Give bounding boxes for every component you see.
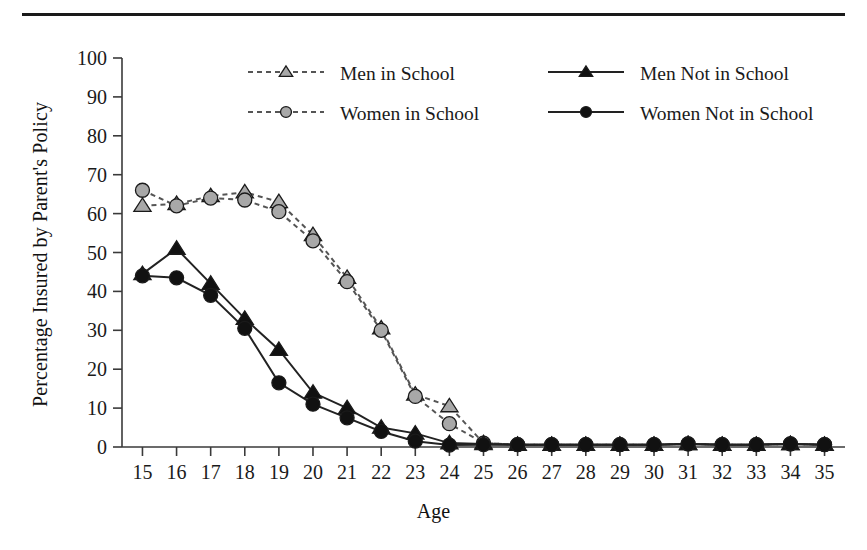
y-tick-label: 0 bbox=[97, 436, 107, 458]
y-tick-label: 80 bbox=[87, 125, 107, 147]
x-tick-label: 26 bbox=[508, 461, 528, 483]
x-tick-label: 29 bbox=[610, 461, 630, 483]
data-point bbox=[408, 434, 422, 448]
data-point bbox=[238, 321, 252, 335]
x-tick-label: 32 bbox=[712, 461, 732, 483]
data-point bbox=[477, 438, 491, 452]
legend-item-men-not-in-school[interactable]: Men Not in School bbox=[548, 63, 790, 84]
y-tick-label: 60 bbox=[87, 203, 107, 225]
x-axis-ticks: 1516171819202122232425262728293031323334… bbox=[132, 447, 834, 483]
data-point bbox=[272, 376, 286, 390]
x-tick-label: 18 bbox=[235, 461, 255, 483]
data-point bbox=[374, 323, 388, 337]
y-tick-label: 20 bbox=[87, 358, 107, 380]
x-tick-label: 20 bbox=[303, 461, 323, 483]
data-point bbox=[374, 424, 388, 438]
legend-item-women-not-in-school[interactable]: Women Not in School bbox=[548, 103, 814, 124]
x-tick-label: 17 bbox=[201, 461, 221, 483]
data-series-layer bbox=[134, 183, 833, 452]
data-point bbox=[135, 183, 149, 197]
legend-label: Women in School bbox=[340, 103, 480, 124]
x-tick-label: 23 bbox=[405, 461, 425, 483]
data-point bbox=[579, 438, 593, 452]
data-point bbox=[613, 438, 627, 452]
x-tick-label: 33 bbox=[746, 461, 766, 483]
legend-item-women-in-school[interactable]: Women in School bbox=[248, 103, 480, 124]
data-point bbox=[238, 193, 252, 207]
x-tick-label: 28 bbox=[576, 461, 596, 483]
data-point bbox=[306, 234, 320, 248]
data-point bbox=[340, 411, 354, 425]
data-point bbox=[272, 205, 286, 219]
y-tick-label: 30 bbox=[87, 319, 107, 341]
data-point bbox=[442, 438, 456, 452]
x-tick-label: 19 bbox=[269, 461, 289, 483]
data-point bbox=[715, 438, 729, 452]
data-point bbox=[545, 438, 559, 452]
series-markers-men-in-school bbox=[134, 184, 833, 450]
x-tick-label: 21 bbox=[337, 461, 357, 483]
x-tick-label: 24 bbox=[439, 461, 459, 483]
series-women-not-in-school bbox=[142, 276, 824, 445]
data-point bbox=[681, 437, 695, 451]
series-markers-men-not-in-school bbox=[134, 241, 833, 450]
data-point bbox=[783, 437, 797, 451]
data-point bbox=[170, 271, 184, 285]
x-tick-label: 27 bbox=[542, 461, 562, 483]
x-tick-label: 22 bbox=[371, 461, 391, 483]
y-axis-ticks: 1009080706050403020100 bbox=[77, 47, 122, 458]
data-point bbox=[408, 389, 422, 403]
series-markers-women-not-in-school bbox=[135, 269, 831, 452]
legend-marker-triangle-icon bbox=[279, 66, 292, 76]
x-tick-label: 35 bbox=[815, 461, 835, 483]
y-tick-label: 50 bbox=[87, 242, 107, 264]
y-tick-label: 70 bbox=[87, 164, 107, 186]
data-point bbox=[340, 275, 354, 289]
y-tick-label: 10 bbox=[87, 397, 107, 419]
x-tick-label: 16 bbox=[167, 461, 187, 483]
series-line bbox=[142, 276, 824, 445]
x-tick-label: 34 bbox=[780, 461, 800, 483]
x-tick-label: 15 bbox=[132, 461, 152, 483]
legend-label: Men in School bbox=[340, 63, 455, 84]
data-point bbox=[749, 438, 763, 452]
data-point bbox=[442, 417, 456, 431]
data-point bbox=[511, 438, 525, 452]
legend-label: Women Not in School bbox=[640, 103, 814, 124]
data-point bbox=[647, 438, 661, 452]
line-chart-plot: 1009080706050403020100 15161718192021222… bbox=[0, 0, 867, 550]
y-tick-label: 100 bbox=[77, 47, 107, 69]
data-point bbox=[204, 191, 218, 205]
data-point bbox=[306, 397, 320, 411]
data-point bbox=[818, 438, 832, 452]
x-tick-label: 30 bbox=[644, 461, 664, 483]
chart-figure: Percentage Insured by Parent's Policy Ag… bbox=[0, 0, 867, 550]
chart-legend: Men in SchoolWomen in SchoolMen Not in S… bbox=[248, 63, 814, 124]
series-line bbox=[142, 249, 824, 445]
data-point bbox=[304, 385, 321, 398]
series-men-not-in-school bbox=[142, 249, 824, 445]
x-tick-label: 31 bbox=[678, 461, 698, 483]
data-point bbox=[170, 199, 184, 213]
y-tick-label: 90 bbox=[87, 86, 107, 108]
legend-item-men-in-school[interactable]: Men in School bbox=[248, 63, 455, 84]
data-point bbox=[168, 241, 185, 254]
y-tick-label: 40 bbox=[87, 280, 107, 302]
legend-label: Men Not in School bbox=[640, 63, 790, 84]
data-point bbox=[204, 288, 218, 302]
legend-marker-circle-icon bbox=[281, 107, 292, 118]
data-point bbox=[134, 198, 151, 211]
legend-marker-circle-icon bbox=[581, 107, 592, 118]
data-point bbox=[135, 269, 149, 283]
x-tick-label: 25 bbox=[474, 461, 494, 483]
